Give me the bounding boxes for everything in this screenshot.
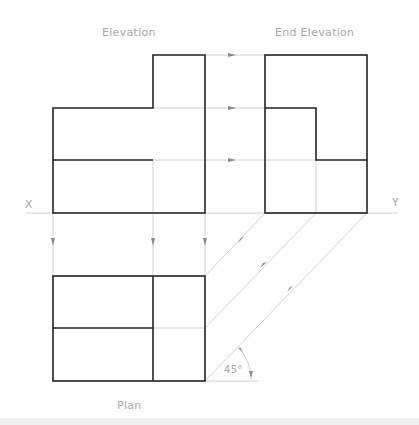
elevation-view xyxy=(53,55,205,213)
projection-arrows xyxy=(51,53,293,378)
x-reference-mark: X xyxy=(25,198,33,211)
plan-view xyxy=(53,276,205,381)
end-elevation-title: End Elevation xyxy=(275,26,354,39)
plan-title: Plan xyxy=(117,399,142,412)
elevation-title: Elevation xyxy=(102,26,156,39)
orthographic-projection-diagram: Elevation End Elevation Plan X Y 45° xyxy=(0,0,419,425)
projection-lines xyxy=(25,55,398,381)
bottom-band xyxy=(0,418,419,425)
angle-label: 45° xyxy=(224,364,243,375)
y-reference-mark: Y xyxy=(392,196,399,209)
drawing-canvas xyxy=(0,0,419,425)
